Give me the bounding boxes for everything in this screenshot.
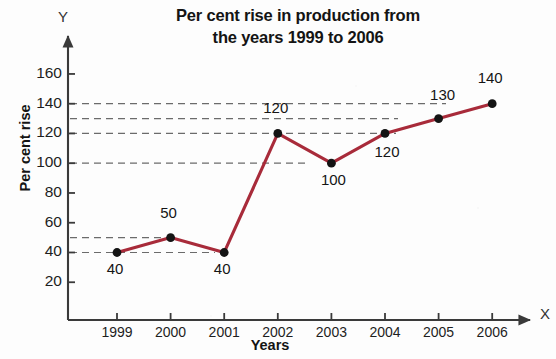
x-axis-tick-label: 2005 bbox=[413, 324, 465, 340]
x-axis-tick-label: 2000 bbox=[145, 324, 197, 340]
data-point-marker bbox=[113, 248, 122, 257]
data-point-label: 130 bbox=[423, 86, 463, 103]
data-point-marker bbox=[327, 159, 336, 168]
x-axis-tick-label: 2003 bbox=[305, 324, 357, 340]
y-axis-tick-label: 160 bbox=[18, 64, 62, 82]
data-point-label: 100 bbox=[313, 171, 353, 188]
x-axis-tick-label: 2004 bbox=[359, 324, 411, 340]
data-point-marker bbox=[166, 233, 175, 242]
y-axis-tick-label: 140 bbox=[18, 94, 62, 112]
axis-lines bbox=[68, 36, 530, 320]
x-axis-tick-label: 2006 bbox=[466, 324, 518, 340]
data-point-label: 140 bbox=[470, 69, 510, 86]
data-point-label: 120 bbox=[367, 143, 407, 160]
data-point-markers bbox=[113, 99, 497, 257]
x-axis-tick-label: 2001 bbox=[198, 324, 250, 340]
data-point-label: 40 bbox=[95, 260, 135, 277]
data-point-label: 120 bbox=[256, 99, 296, 116]
y-axis-tick-label: 20 bbox=[18, 272, 62, 290]
y-axis-tick-label: 40 bbox=[18, 242, 62, 260]
data-point-marker bbox=[434, 114, 443, 123]
chart-figure: Per cent rise in production from the yea… bbox=[0, 0, 556, 359]
data-point-marker bbox=[488, 99, 497, 108]
data-point-marker bbox=[220, 248, 229, 257]
data-point-marker bbox=[381, 129, 390, 138]
data-series-line bbox=[117, 104, 492, 253]
y-axis-tick-label: 60 bbox=[18, 213, 62, 231]
y-axis-tick-label: 120 bbox=[18, 123, 62, 141]
data-point-label: 40 bbox=[202, 260, 242, 277]
data-point-label: 50 bbox=[149, 204, 189, 221]
x-axis-tick-label: 2002 bbox=[252, 324, 304, 340]
x-axis-tick-label: 1999 bbox=[91, 324, 143, 340]
plot-area bbox=[0, 0, 556, 359]
y-axis-tick-label: 100 bbox=[18, 153, 62, 171]
y-axis-tick-label: 80 bbox=[18, 183, 62, 201]
data-point-marker bbox=[273, 129, 282, 138]
